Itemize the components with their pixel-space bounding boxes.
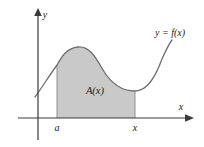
- tick-label-x: x: [132, 122, 138, 133]
- area-function-figure: y x a x A(x) y = f(x): [0, 0, 204, 147]
- tick-label-a: a: [55, 122, 60, 133]
- area-region-label: A(x): [85, 85, 105, 97]
- y-axis-label: y: [42, 9, 48, 20]
- y-axis-arrow-icon: [34, 8, 42, 16]
- curve-equation-label: y = f(x): [154, 27, 186, 39]
- x-axis-label: x: [178, 101, 184, 112]
- x-axis-arrow-icon: [185, 114, 194, 122]
